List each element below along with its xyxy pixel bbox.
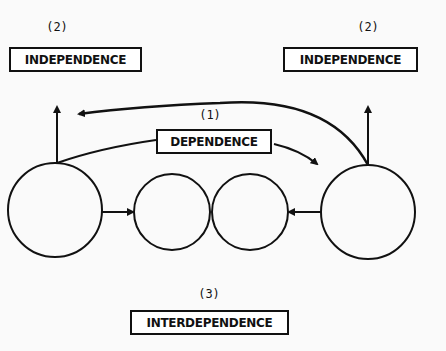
interdependence-box: INTERDEPENDENCE	[130, 310, 289, 335]
dependence-curve-right	[274, 144, 317, 164]
middle-left-circle	[134, 174, 210, 250]
independence-left-number: (2)	[46, 20, 68, 34]
independence-left-box: INDEPENDENCE	[9, 47, 142, 72]
interdependence-number: (3)	[198, 287, 220, 301]
dependence-number: (1)	[199, 108, 221, 122]
independence-right-number: (2)	[357, 20, 379, 34]
left-large-circle	[8, 163, 102, 257]
dependence-curve-left	[57, 140, 156, 163]
independence-right-box: INDEPENDENCE	[283, 47, 418, 72]
middle-right-circle	[212, 174, 288, 250]
dependence-box: DEPENDENCE	[156, 129, 272, 154]
right-large-circle	[321, 165, 415, 259]
